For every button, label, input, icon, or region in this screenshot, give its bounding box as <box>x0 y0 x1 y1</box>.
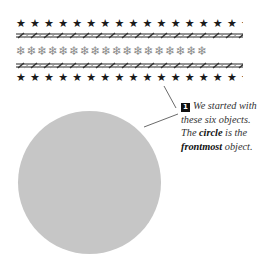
caption-bold-frontmost: frontmost <box>181 141 222 152</box>
caption-bold-circle: circle <box>199 127 222 138</box>
caption-text-a: The <box>181 127 199 138</box>
step-caption: 1We started with these six objects. The … <box>181 99 262 153</box>
caption-line1: We started with these six objects. <box>181 100 257 125</box>
caption-text-c: object. <box>222 141 252 152</box>
caption-text-b: is the <box>222 127 247 138</box>
step-number-badge: 1 <box>181 103 190 112</box>
